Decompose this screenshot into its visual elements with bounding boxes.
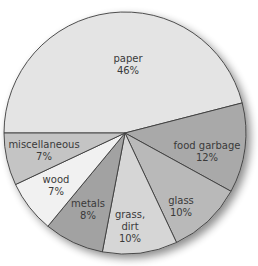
label-wood: wood7% [43,174,70,198]
label-metals: metals8% [71,198,105,222]
label-food-garbage: food garbage12% [174,140,241,164]
label-glass: glass10% [168,195,194,219]
label-paper: paper46% [113,53,142,77]
label-grass-dirt: grass,dirt10% [115,209,145,245]
label-miscellaneous: miscellaneous7% [8,139,79,163]
